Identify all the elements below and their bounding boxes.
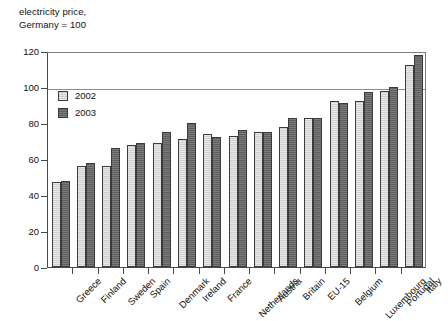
chart-legend: 20022003	[58, 89, 120, 123]
legend-swatch-icon	[58, 91, 68, 101]
bar	[127, 145, 136, 267]
x-axis-tick-mark	[274, 268, 275, 274]
bar-group	[127, 51, 145, 267]
x-axis-category-label: Austria	[276, 276, 304, 304]
legend-item: 2002	[58, 89, 96, 103]
bar	[52, 182, 61, 267]
bar-group	[380, 51, 398, 267]
y-axis-labels: 020406080100120	[0, 0, 39, 321]
y-axis-tick-label: 20	[1, 227, 39, 237]
bar-group	[405, 51, 423, 267]
bar-group	[203, 51, 221, 267]
bar-group	[304, 51, 322, 267]
legend-item-label: 2002	[75, 91, 96, 101]
legend-swatch-icon	[58, 108, 68, 118]
bar-group	[279, 51, 297, 267]
x-axis-tick-mark	[123, 268, 124, 274]
bar	[364, 92, 373, 267]
x-axis-tick-mark	[148, 268, 149, 274]
x-axis-tick-mark	[224, 268, 225, 274]
x-axis-category-label: Finland	[100, 276, 129, 305]
x-axis-category-label: Belgium	[353, 276, 384, 307]
bar	[330, 101, 339, 267]
x-axis-tick-mark	[98, 268, 99, 274]
x-axis-tick-mark	[375, 268, 376, 274]
bar	[203, 134, 212, 267]
bar	[187, 123, 196, 267]
y-axis-tick-label: 60	[1, 155, 39, 165]
legend-item-label: 2003	[75, 108, 96, 118]
bar-chart: electricity price,Germany = 100 02040608…	[0, 0, 448, 321]
bar-group	[153, 51, 171, 267]
bar-group	[178, 51, 196, 267]
bar	[102, 166, 111, 267]
y-axis-tick-label: 40	[1, 191, 39, 201]
x-axis-category-label: EU-15	[326, 276, 352, 302]
bar	[339, 103, 348, 267]
x-axis-tick-mark	[325, 268, 326, 274]
bar-group	[355, 51, 373, 267]
bar	[61, 181, 70, 267]
bar	[263, 132, 272, 267]
bar	[238, 130, 247, 267]
bar	[304, 118, 313, 267]
bar-group	[229, 51, 247, 267]
bar	[212, 137, 221, 267]
bar	[136, 143, 145, 267]
bar-group	[254, 51, 272, 267]
y-axis-tick-label: 120	[1, 47, 39, 57]
x-axis-tick-mark	[300, 268, 301, 274]
x-axis-tick-mark	[173, 268, 174, 274]
bar	[355, 101, 364, 267]
x-axis-tick-mark	[401, 268, 402, 274]
x-axis-category-label: Britain	[300, 276, 326, 302]
x-axis-tick-mark	[199, 268, 200, 274]
y-axis-tick-label: 80	[1, 119, 39, 129]
bar	[414, 55, 423, 267]
bar	[153, 143, 162, 267]
plot-area	[47, 52, 426, 268]
bar	[162, 132, 171, 267]
bar	[288, 118, 297, 267]
y-axis-tick-mark	[41, 268, 47, 269]
x-axis-tick-mark	[249, 268, 250, 274]
bar	[111, 148, 120, 267]
y-axis-tick-label: 100	[1, 83, 39, 93]
y-axis-tick-label: 0	[1, 263, 39, 273]
bar-group	[330, 51, 348, 267]
bar	[279, 127, 288, 267]
x-axis-category-label: Greece	[74, 276, 103, 305]
bar	[313, 118, 322, 267]
bar	[77, 166, 86, 267]
bar-group	[52, 51, 70, 267]
x-axis-category-label: France	[225, 276, 253, 304]
bar	[380, 91, 389, 267]
x-axis-tick-mark	[72, 268, 73, 274]
bar	[229, 136, 238, 267]
bar-group	[102, 51, 120, 267]
bar	[178, 139, 187, 267]
bar	[254, 132, 263, 267]
bar-group	[77, 51, 95, 267]
bar	[389, 87, 398, 267]
bar	[405, 65, 414, 267]
bar	[86, 163, 95, 267]
legend-item: 2003	[58, 106, 96, 120]
x-axis-tick-mark	[350, 268, 351, 274]
